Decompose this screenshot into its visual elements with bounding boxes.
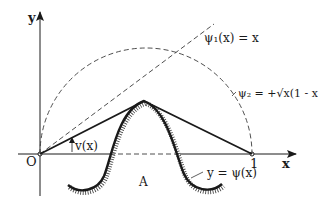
region-label: A xyxy=(138,175,148,189)
psi1-line xyxy=(40,24,214,154)
obstacle-label: y = ψ(x) xyxy=(206,166,257,180)
origin-label: O xyxy=(26,154,37,169)
y-axis-label: y xyxy=(27,10,36,25)
x-axis-label: x xyxy=(282,156,290,171)
obstacle-problem-diagram: y x O 1 v(x) ψ₁(x) = x ψ₂ = +√x(1 - x) y… xyxy=(0,0,318,211)
solution-label: v(x) xyxy=(74,139,98,153)
obstacle-label-leader xyxy=(191,172,203,178)
psi1-label: ψ₁(x) = x xyxy=(204,31,259,45)
psi2-label: ψ₂ = +√x(1 - x) xyxy=(238,87,318,100)
